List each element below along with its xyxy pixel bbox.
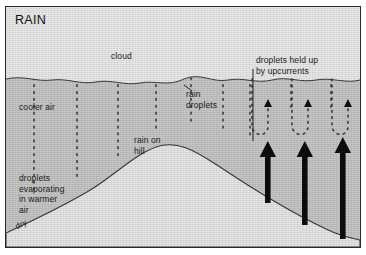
rain-diagram-figure: RAIN cloud cooler air rain droplets rain…: [0, 0, 366, 255]
diagram-canvas: [6, 7, 360, 247]
diagram-frame: RAIN cloud cooler air rain droplets rain…: [5, 6, 361, 248]
page-title: RAIN: [15, 13, 46, 27]
